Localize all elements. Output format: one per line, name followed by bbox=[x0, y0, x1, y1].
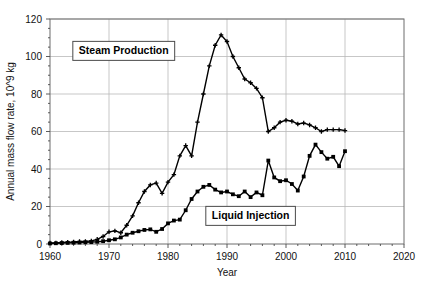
data-point-marker bbox=[172, 219, 176, 223]
x-tick-label: 2020 bbox=[393, 251, 416, 262]
annotation-steam-production: Steam Production bbox=[73, 41, 175, 60]
data-point-marker bbox=[296, 122, 300, 126]
annotation-liquid-injection: Liquid Injection bbox=[206, 206, 296, 225]
data-point-marker bbox=[184, 208, 188, 212]
series-line bbox=[50, 35, 345, 243]
data-point-marker bbox=[343, 128, 347, 132]
data-point-marker bbox=[95, 240, 99, 244]
data-point-marker bbox=[89, 240, 93, 244]
data-point-marker bbox=[243, 190, 247, 194]
data-point-marker bbox=[196, 190, 200, 194]
data-point-marker bbox=[320, 150, 324, 154]
data-point-marker bbox=[54, 241, 58, 245]
series-liquid-injection bbox=[48, 143, 347, 246]
y-tick-label: 60 bbox=[31, 126, 43, 137]
annotation-liquid-label: Liquid Injection bbox=[212, 209, 290, 221]
x-tick-label: 1970 bbox=[98, 251, 121, 262]
x-axis-tick-labels: 1960197019801990200020102020 bbox=[39, 251, 416, 262]
data-point-marker bbox=[107, 238, 111, 242]
series-steam-production bbox=[48, 33, 347, 246]
data-point-marker bbox=[207, 64, 211, 68]
data-point-marker bbox=[337, 164, 341, 168]
data-point-marker bbox=[195, 120, 199, 124]
data-point-marker bbox=[66, 241, 70, 245]
data-point-marker bbox=[290, 119, 294, 123]
data-point-marker bbox=[72, 241, 76, 245]
data-point-marker bbox=[307, 123, 311, 127]
data-point-marker bbox=[331, 155, 335, 159]
y-axis-title: Annual mass flow rate, 10^9 kg bbox=[5, 62, 16, 201]
data-point-marker bbox=[143, 228, 147, 232]
data-point-marker bbox=[131, 231, 135, 235]
data-series-layer bbox=[48, 33, 347, 246]
data-point-marker bbox=[207, 183, 211, 187]
series-line bbox=[50, 145, 345, 244]
x-tick-label: 2010 bbox=[334, 251, 357, 262]
data-point-marker bbox=[284, 118, 288, 122]
data-point-marker bbox=[190, 197, 194, 201]
data-point-marker bbox=[219, 191, 223, 195]
y-tick-label: 20 bbox=[31, 201, 43, 212]
data-point-marker bbox=[160, 227, 164, 231]
x-axis-title: Year bbox=[217, 267, 238, 278]
y-tick-label: 0 bbox=[36, 239, 42, 250]
chart-container: 1960197019801990200020102020 02040608010… bbox=[0, 0, 421, 288]
line-chart: 1960197019801990200020102020 02040608010… bbox=[0, 0, 421, 288]
data-point-marker bbox=[290, 182, 294, 186]
data-point-marker bbox=[113, 237, 117, 241]
data-point-marker bbox=[249, 195, 253, 199]
x-tick-label: 1960 bbox=[39, 251, 62, 262]
data-point-marker bbox=[113, 229, 117, 233]
data-point-marker bbox=[225, 190, 229, 194]
data-point-marker bbox=[278, 179, 282, 183]
data-point-marker bbox=[78, 241, 82, 245]
data-point-marker bbox=[119, 236, 123, 240]
data-point-marker bbox=[266, 159, 270, 163]
y-tick-label: 80 bbox=[31, 89, 43, 100]
data-point-marker bbox=[284, 178, 288, 182]
y-axis-tick-labels: 020406080100120 bbox=[25, 14, 42, 250]
data-point-marker bbox=[272, 176, 276, 180]
x-tick-label: 1980 bbox=[157, 251, 180, 262]
data-point-marker bbox=[261, 193, 265, 197]
data-point-marker bbox=[166, 221, 170, 225]
data-point-marker bbox=[213, 188, 217, 192]
data-point-marker bbox=[154, 230, 158, 234]
data-point-marker bbox=[308, 154, 312, 158]
y-tick-label: 120 bbox=[25, 14, 42, 25]
data-point-marker bbox=[84, 240, 88, 244]
annotation-steam-label: Steam Production bbox=[79, 44, 169, 56]
data-point-marker bbox=[255, 191, 259, 195]
data-point-marker bbox=[201, 92, 205, 96]
data-point-marker bbox=[125, 233, 129, 237]
data-point-marker bbox=[237, 194, 241, 198]
data-point-marker bbox=[296, 189, 300, 193]
data-point-marker bbox=[60, 241, 64, 245]
data-point-marker bbox=[302, 121, 306, 125]
data-point-marker bbox=[314, 143, 318, 147]
data-point-marker bbox=[48, 242, 52, 246]
x-tick-label: 1990 bbox=[216, 251, 239, 262]
data-point-marker bbox=[101, 239, 105, 243]
data-point-marker bbox=[137, 229, 141, 233]
x-tick-label: 2000 bbox=[275, 251, 298, 262]
y-tick-label: 100 bbox=[25, 51, 42, 62]
data-point-marker bbox=[202, 185, 206, 189]
y-tick-label: 40 bbox=[31, 164, 43, 175]
data-point-marker bbox=[325, 157, 329, 161]
data-point-marker bbox=[343, 149, 347, 153]
data-point-marker bbox=[231, 192, 235, 196]
data-point-marker bbox=[148, 227, 152, 231]
data-point-marker bbox=[178, 218, 182, 222]
data-point-marker bbox=[302, 175, 306, 179]
